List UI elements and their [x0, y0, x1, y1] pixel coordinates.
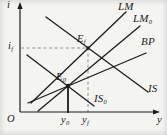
- diagram-svg: [0, 0, 167, 135]
- is-lm-bp-figure: LMLM0BPISIS0EfE0ify0yfiyO: [0, 0, 167, 135]
- e0-point: [66, 84, 70, 88]
- is0-curve: [27, 55, 94, 106]
- x-axis-arrow-icon: [153, 109, 160, 114]
- ef-point: [86, 46, 89, 49]
- lm0-curve: [38, 26, 140, 111]
- lm-curve: [31, 12, 126, 103]
- y-axis-arrow-icon: [17, 2, 22, 9]
